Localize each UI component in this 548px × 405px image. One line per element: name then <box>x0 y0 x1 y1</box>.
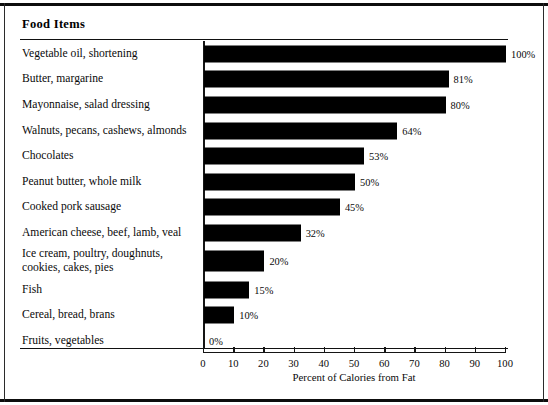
chart-row: Mayonnaise, salad dressing80% <box>20 92 508 118</box>
bar-value-label: 53% <box>369 151 388 162</box>
chart-row: American cheese, beef, lamb, veal32% <box>20 220 508 246</box>
chart-row: Vegetable oil, shortening100% <box>20 41 508 67</box>
x-axis-tick-label: 10 <box>228 358 239 369</box>
bar-value-label: 20% <box>269 256 288 267</box>
category-label: Mayonnaise, salad dressing <box>22 98 150 112</box>
bar <box>204 148 364 165</box>
category-label: Walnuts, pecans, cashews, almonds <box>22 124 187 138</box>
category-label: Peanut butter, whole milk <box>22 175 141 189</box>
x-axis-tick <box>384 347 385 353</box>
chart-row: Butter, margarine81% <box>20 67 508 93</box>
figure-right-border <box>543 3 544 402</box>
x-axis-tick-label: 70 <box>409 358 420 369</box>
x-axis-tick <box>354 347 355 353</box>
chart-figure: Food Items Vegetable oil, shortening100%… <box>0 0 548 405</box>
chart-row: Chocolates53% <box>20 143 508 169</box>
x-axis-tick-label: 60 <box>379 358 390 369</box>
bar-value-label: 81% <box>454 74 473 85</box>
category-label: Fish <box>22 283 42 297</box>
bar-track: 45% <box>204 195 508 221</box>
x-axis-tick <box>294 347 295 353</box>
category-label: American cheese, beef, lamb, veal <box>22 226 181 240</box>
bar-track: 0% <box>204 328 508 354</box>
x-axis-tick <box>414 347 415 353</box>
bar-track: 15% <box>204 277 508 303</box>
bar-value-label: 45% <box>345 202 364 213</box>
chart-row: Cereal, bread, brans10% <box>20 302 508 328</box>
x-axis-tick-label: 0 <box>200 358 205 369</box>
category-label: Vegetable oil, shortening <box>22 47 138 61</box>
bar <box>204 281 249 298</box>
x-axis-tick <box>263 347 264 353</box>
category-label: Ice cream, poultry, doughnuts, cookies, … <box>22 248 163 275</box>
x-axis-tick-label: 50 <box>349 358 360 369</box>
bar <box>204 96 446 113</box>
x-axis-tick <box>233 347 234 353</box>
bar-track: 32% <box>204 220 508 246</box>
bar <box>204 71 449 88</box>
category-label: Cereal, bread, brans <box>22 308 115 322</box>
x-axis-tick <box>324 347 325 353</box>
bar-rows-container: Vegetable oil, shortening100%Butter, mar… <box>20 41 508 348</box>
x-axis-tick-label: 90 <box>470 358 481 369</box>
bar-value-label: 0% <box>209 335 223 346</box>
bar-track: 20% <box>204 246 508 277</box>
bar <box>204 307 234 324</box>
bar <box>204 199 340 216</box>
bar <box>204 122 397 139</box>
category-label: Fruits, vegetables <box>22 334 104 348</box>
bar <box>204 224 301 241</box>
category-label: Butter, margarine <box>22 73 103 87</box>
figure-bottom-border <box>0 399 548 402</box>
food-items-column-header: Food Items <box>22 17 85 32</box>
bar-value-label: 80% <box>451 99 470 110</box>
figure-left-border <box>4 3 5 402</box>
x-axis-tick <box>475 347 476 353</box>
chart-row: Ice cream, poultry, doughnuts, cookies, … <box>20 246 508 277</box>
x-axis-tick-label: 20 <box>258 358 269 369</box>
bar-track: 53% <box>204 143 508 169</box>
bar <box>204 45 506 62</box>
bar-value-label: 50% <box>360 176 379 187</box>
x-axis-tick-label: 100 <box>497 358 513 369</box>
bar-value-label: 100% <box>511 48 535 59</box>
x-axis-tick <box>505 347 506 353</box>
bar-track: 81% <box>204 67 508 93</box>
bar-track: 10% <box>204 302 508 328</box>
bar-track: 50% <box>204 169 508 195</box>
x-axis-tick-label: 80 <box>439 358 450 369</box>
chart-row: Fish15% <box>20 277 508 303</box>
bar-value-label: 32% <box>306 227 325 238</box>
bar <box>204 173 355 190</box>
x-axis-title: Percent of Calories from Fat <box>203 371 505 383</box>
chart-row: Peanut butter, whole milk50% <box>20 169 508 195</box>
x-axis-tick-label: 30 <box>288 358 299 369</box>
bar-track: 80% <box>204 92 508 118</box>
bar-value-label: 10% <box>239 310 258 321</box>
x-axis-tick <box>445 347 446 353</box>
bar <box>204 251 264 272</box>
x-axis-tick <box>203 347 204 353</box>
x-axis-tick-label: 40 <box>319 358 330 369</box>
chart-row: Walnuts, pecans, cashews, almonds64% <box>20 118 508 144</box>
bar-value-label: 15% <box>254 284 273 295</box>
bar-track: 100% <box>204 41 508 67</box>
category-label: Chocolates <box>22 149 74 163</box>
chart-row: Cooked pork sausage45% <box>20 195 508 221</box>
bar-track: 64% <box>204 118 508 144</box>
bar-value-label: 64% <box>402 125 421 136</box>
figure-top-border <box>0 3 548 6</box>
category-label: Cooked pork sausage <box>22 201 121 215</box>
